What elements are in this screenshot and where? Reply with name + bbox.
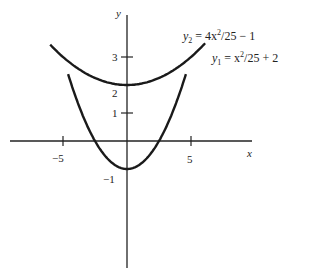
x-tick-label-neg5: −5 xyxy=(52,153,64,164)
y-tick-label-2: 2 xyxy=(112,88,118,99)
equation-y2: y2 = 4x2/25 − 1 xyxy=(183,28,255,45)
equation-y1: y1 = x2/25 + 2 xyxy=(212,50,278,67)
y-axis-label: y xyxy=(116,8,121,19)
y-tick-label-1: 1 xyxy=(112,108,118,119)
x-axis-label: x xyxy=(247,148,252,159)
y-tick-label-3: 3 xyxy=(112,52,118,63)
x-tick-label-5: 5 xyxy=(187,154,193,165)
curve-y1 xyxy=(50,43,205,85)
y-tick-label-neg1: −1 xyxy=(103,174,115,185)
